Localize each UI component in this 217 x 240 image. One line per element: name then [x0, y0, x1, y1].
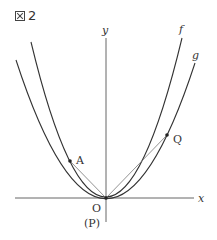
origin-label: O: [92, 202, 101, 215]
point-Q: [165, 133, 169, 137]
origin-alt-label: (P): [84, 217, 100, 230]
curve-f: [31, 38, 182, 197]
curve-f-label: f: [178, 23, 185, 36]
coordinate-diagram: y x f g A Q O (P): [0, 0, 217, 240]
point-A: [68, 159, 72, 163]
curve-g-label: g: [192, 49, 199, 62]
point-Q-label: Q: [173, 133, 182, 146]
segment-OQ: [106, 135, 167, 198]
curve-g: [16, 60, 195, 199]
point-A-label: A: [75, 154, 85, 167]
x-axis-label: x: [198, 192, 205, 205]
y-axis-label: y: [101, 24, 109, 37]
point-O: [104, 196, 108, 200]
